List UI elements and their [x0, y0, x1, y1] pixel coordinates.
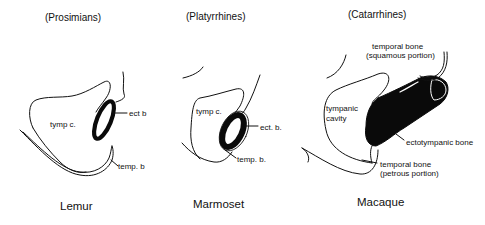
- species-name-lemur: Lemur: [60, 200, 93, 212]
- marmoset-ectotympanic-ring: [218, 112, 249, 150]
- lemur-label-temporal: temp. b: [118, 162, 145, 171]
- lemur-label-tympanic-cavity: tymp c.: [50, 120, 76, 129]
- marmoset-temporal-leader: [225, 150, 236, 158]
- group-title-catarrhines: (Catarrhines): [348, 9, 406, 20]
- diagram-artwork: [0, 0, 485, 225]
- macaque-drawing: [302, 52, 448, 174]
- macaque-upper-arc: [327, 55, 346, 78]
- macaque-label-squamous-2: (squamous portion): [366, 51, 435, 60]
- species-name-macaque: Macaque: [357, 196, 404, 208]
- macaque-ectotympanic-bone: [365, 76, 448, 146]
- macaque-label-ectotympanic: ectotympanic bone: [406, 138, 473, 147]
- macaque-petrous-inner: [371, 146, 373, 163]
- macaque-label-petrous-1: temporal bone: [380, 160, 431, 169]
- macaque-label-petrous-2: (petrous portion): [380, 169, 439, 178]
- marmoset-label-tympanic-cavity: tymp c.: [196, 107, 222, 116]
- species-name-marmoset: Marmoset: [193, 198, 244, 210]
- marmoset-upper-arc: [183, 67, 203, 78]
- macaque-ecto-leader: [396, 134, 404, 140]
- marmoset-label-ectotympanic: ect. b.: [260, 123, 282, 132]
- macaque-label-squamous-1: temporal bone: [372, 42, 423, 51]
- group-title-platyrrhines: (Platyrrhines): [186, 11, 245, 22]
- macaque-label-tympanic-1: tympanic: [326, 104, 358, 113]
- group-title-prosimians: (Prosimians): [45, 12, 101, 23]
- lemur-temporal-leader: [111, 160, 118, 166]
- lemur-label-ectotympanic: ect b: [129, 109, 146, 118]
- lemur-squamous-line: [116, 72, 125, 102]
- lemur-ectotympanic-ring: [90, 99, 118, 141]
- marmoset-squamous-line: [238, 75, 260, 116]
- marmoset-label-temporal: temp. b.: [237, 155, 266, 164]
- macaque-label-tympanic-2: cavity: [326, 114, 346, 123]
